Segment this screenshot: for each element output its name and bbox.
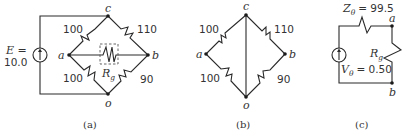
node-a-label: a [196, 48, 203, 61]
circuit-figure: E = 10.0 a b c o 100 110 100 90 Rg (a) a… [0, 0, 404, 135]
resistor-ac-icon [69, 16, 108, 55]
resistor-ob-value: 90 [140, 73, 153, 85]
galvanometer-resistor-icon [69, 47, 148, 62]
node-b-label: b [152, 49, 159, 62]
load-label: Rg [369, 47, 383, 62]
caption-b: (b) [236, 119, 250, 130]
resistor-ao-value: 100 [200, 72, 220, 84]
voltage-source-icon [33, 48, 47, 62]
diagram-a: E = 10.0 a b c o 100 110 100 90 Rg (a) [4, 2, 159, 130]
caption-c: (c) [355, 119, 369, 130]
resistor-cb-value: 110 [274, 23, 294, 35]
node-b-label: b [289, 48, 296, 61]
thevenin-impedance-icon [339, 17, 392, 48]
caption-a: (a) [83, 119, 97, 130]
source-value: 10.0 [4, 56, 27, 68]
resistor-ob-value: 90 [277, 73, 290, 85]
node-b-dot [146, 53, 150, 57]
resistor-cb-value: 110 [137, 23, 157, 35]
node-c-label: c [105, 2, 111, 15]
node-a-label: a [58, 49, 65, 62]
diagram-b: a b c o 100 110 100 90 (b) [196, 0, 296, 130]
galvanometer-label: Rg [101, 67, 115, 82]
node-a-dot [67, 53, 71, 57]
node-o-label: o [243, 99, 250, 112]
diagram-c: a b Zθ= 99.5 Rg Vθ= 0.50 (c) [332, 2, 401, 130]
resistor-ao-value: 100 [63, 72, 83, 84]
resistor-ac-value: 100 [199, 23, 219, 35]
thevenin-impedance-label: Zθ= 99.5 [342, 2, 394, 17]
node-b-dot [390, 81, 394, 85]
node-o-label: o [105, 97, 112, 110]
node-a-dot [204, 52, 208, 56]
node-o-dot [106, 92, 110, 96]
thevenin-source-icon [332, 48, 346, 62]
node-c-dot [244, 13, 248, 17]
node-b-label: b [389, 86, 396, 99]
node-c-label: c [243, 0, 249, 13]
thevenin-voltage-label: Vθ= 0.50 [341, 63, 392, 78]
resistor-cb-icon [108, 16, 148, 55]
node-b-dot [283, 52, 287, 56]
resistor-ac-value: 100 [63, 23, 83, 35]
